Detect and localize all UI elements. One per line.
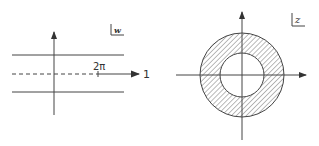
z-plane-panel: z	[176, 12, 306, 140]
arrow-end-label: 1	[143, 68, 150, 81]
w-plane-label-box: w	[111, 24, 124, 35]
diagram-canvas: 2π 1 w z	[0, 0, 319, 146]
w-plane-panel: 2π 1 w	[12, 24, 150, 115]
w-plane-label: w	[114, 25, 122, 35]
two-pi-label: 2π	[93, 61, 105, 72]
z-plane-label: z	[294, 14, 301, 25]
z-plane-label-box: z	[292, 13, 305, 26]
